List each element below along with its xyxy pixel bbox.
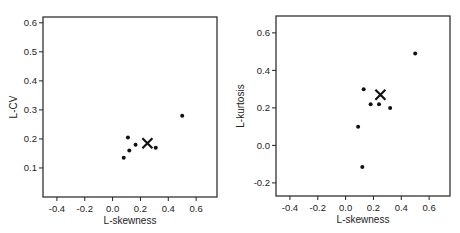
x-tick-label: -0.2 xyxy=(310,202,326,213)
y-tick-label: 0.6 xyxy=(257,27,270,38)
data-point xyxy=(362,87,366,91)
x-tick-label: -0.2 xyxy=(77,203,93,214)
data-point xyxy=(377,102,381,106)
x-tick-label: 0.4 xyxy=(395,202,408,213)
data-point xyxy=(360,165,364,169)
data-point xyxy=(126,135,130,139)
data-point xyxy=(413,52,417,56)
y-tick-label: 0.5 xyxy=(24,46,37,57)
x-tick-label: 0.0 xyxy=(106,203,119,214)
x-tick-label: 0.0 xyxy=(339,202,352,213)
data-point xyxy=(154,146,158,150)
x-tick-label: -0.4 xyxy=(282,202,298,213)
y-tick-label: 0.4 xyxy=(257,65,270,76)
y-tick-label: 0.6 xyxy=(24,17,37,28)
y-tick-label: 0.2 xyxy=(257,102,270,113)
x-axis-label: L-skewness xyxy=(337,214,390,225)
y-axis-label: L-CV xyxy=(8,95,19,118)
y-tick-label: -0.2 xyxy=(254,177,270,188)
y-axis-label: L-kurtosis xyxy=(235,84,246,127)
data-point xyxy=(122,156,126,160)
data-point xyxy=(127,149,131,153)
scatter-panel-1: -0.4-0.20.00.20.40.60.10.20.30.40.50.6L-… xyxy=(8,17,217,226)
y-tick-label: 0.4 xyxy=(24,75,37,86)
x-marker-icon xyxy=(375,90,385,100)
y-tick-label: 0.1 xyxy=(24,162,37,173)
data-point xyxy=(388,106,392,110)
y-tick-label: 0.3 xyxy=(24,104,37,115)
x-tick-label: 0.2 xyxy=(134,203,147,214)
x-tick-label: 0.2 xyxy=(367,202,380,213)
charts-figure: -0.4-0.20.00.20.40.60.10.20.30.40.50.6L-… xyxy=(0,0,460,233)
data-point xyxy=(356,125,360,129)
x-tick-label: -0.4 xyxy=(49,203,65,214)
data-point xyxy=(180,114,184,118)
y-tick-label: 0.2 xyxy=(24,133,37,144)
scatter-panel-2: -0.4-0.20.00.20.40.6-0.20.00.20.40.6L-sk… xyxy=(235,16,450,225)
y-tick-label: 0.0 xyxy=(257,140,270,151)
x-tick-label: 0.6 xyxy=(190,203,203,214)
plot-frame xyxy=(276,16,450,196)
data-point xyxy=(369,102,373,106)
x-axis-label: L-skewness xyxy=(104,215,157,226)
plot-frame xyxy=(43,17,217,197)
x-tick-label: 0.6 xyxy=(423,202,436,213)
x-tick-label: 0.4 xyxy=(162,203,175,214)
x-marker-icon xyxy=(142,138,152,148)
data-point xyxy=(134,143,138,147)
